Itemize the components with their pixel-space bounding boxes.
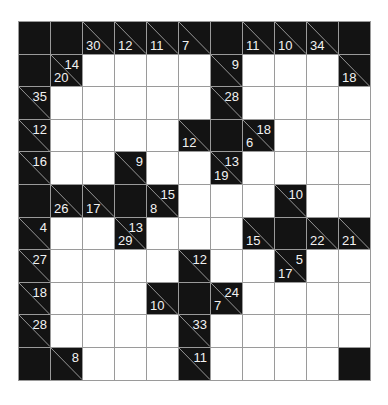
entry-cell[interactable] xyxy=(147,87,179,120)
across-clue: 13 xyxy=(225,155,239,168)
clue-cell: 18 xyxy=(19,283,51,316)
entry-cell[interactable] xyxy=(307,250,339,283)
entry-cell[interactable] xyxy=(147,250,179,283)
across-clue: 28 xyxy=(225,90,239,103)
clue-cell: 517 xyxy=(275,250,307,283)
entry-cell[interactable] xyxy=(339,283,371,316)
entry-cell[interactable] xyxy=(275,315,307,348)
entry-cell[interactable] xyxy=(307,120,339,153)
entry-cell[interactable] xyxy=(83,348,115,381)
entry-cell[interactable] xyxy=(307,315,339,348)
entry-cell[interactable] xyxy=(51,87,83,120)
entry-cell[interactable] xyxy=(147,315,179,348)
entry-cell[interactable] xyxy=(307,55,339,88)
entry-cell[interactable] xyxy=(83,218,115,251)
entry-cell[interactable] xyxy=(115,348,147,381)
entry-cell[interactable] xyxy=(243,55,275,88)
entry-cell[interactable] xyxy=(275,283,307,316)
entry-cell[interactable] xyxy=(307,185,339,218)
entry-cell[interactable] xyxy=(83,250,115,283)
clue-cell: 11 xyxy=(147,22,179,55)
down-clue: 26 xyxy=(54,202,68,215)
entry-cell[interactable] xyxy=(115,87,147,120)
across-clue: 27 xyxy=(33,253,47,266)
entry-cell[interactable] xyxy=(83,152,115,185)
clue-cell: 4 xyxy=(19,218,51,251)
entry-cell[interactable] xyxy=(211,250,243,283)
down-clue: 19 xyxy=(214,169,228,182)
entry-cell[interactable] xyxy=(115,283,147,316)
across-clue: 13 xyxy=(129,221,143,234)
across-clue: 5 xyxy=(296,253,303,266)
entry-cell[interactable] xyxy=(307,348,339,381)
entry-cell[interactable] xyxy=(83,315,115,348)
entry-cell[interactable] xyxy=(147,218,179,251)
entry-cell[interactable] xyxy=(243,152,275,185)
entry-cell[interactable] xyxy=(83,87,115,120)
entry-cell[interactable] xyxy=(51,315,83,348)
blocked-cell xyxy=(19,55,51,88)
down-clue: 10 xyxy=(150,299,164,312)
entry-cell[interactable] xyxy=(179,218,211,251)
entry-cell[interactable] xyxy=(243,87,275,120)
entry-cell[interactable] xyxy=(83,55,115,88)
entry-cell[interactable] xyxy=(339,87,371,120)
entry-cell[interactable] xyxy=(243,283,275,316)
entry-cell[interactable] xyxy=(275,152,307,185)
down-clue: 18 xyxy=(342,71,356,84)
entry-cell[interactable] xyxy=(115,315,147,348)
entry-cell[interactable] xyxy=(83,120,115,153)
entry-cell[interactable] xyxy=(339,185,371,218)
entry-cell[interactable] xyxy=(243,348,275,381)
entry-cell[interactable] xyxy=(211,315,243,348)
blocked-cell xyxy=(211,120,243,153)
entry-cell[interactable] xyxy=(275,87,307,120)
down-clue: 7 xyxy=(182,39,189,52)
entry-cell[interactable] xyxy=(147,55,179,88)
entry-cell[interactable] xyxy=(51,152,83,185)
entry-cell[interactable] xyxy=(243,250,275,283)
entry-cell[interactable] xyxy=(115,120,147,153)
across-clue: 8 xyxy=(72,351,79,364)
entry-cell[interactable] xyxy=(275,120,307,153)
entry-cell[interactable] xyxy=(51,218,83,251)
entry-cell[interactable] xyxy=(51,120,83,153)
entry-cell[interactable] xyxy=(83,283,115,316)
entry-cell[interactable] xyxy=(275,55,307,88)
entry-cell[interactable] xyxy=(115,250,147,283)
entry-cell[interactable] xyxy=(339,152,371,185)
across-clue: 4 xyxy=(40,221,47,234)
down-clue: 7 xyxy=(214,299,221,312)
blocked-cell xyxy=(179,283,211,316)
clue-cell: 10 xyxy=(147,283,179,316)
down-clue: 10 xyxy=(278,39,292,52)
entry-cell[interactable] xyxy=(51,250,83,283)
entry-cell[interactable] xyxy=(243,185,275,218)
entry-cell[interactable] xyxy=(147,120,179,153)
entry-cell[interactable] xyxy=(179,87,211,120)
entry-cell[interactable] xyxy=(211,185,243,218)
down-clue: 12 xyxy=(118,39,132,52)
clue-cell: 21 xyxy=(339,218,371,251)
entry-cell[interactable] xyxy=(179,55,211,88)
entry-cell[interactable] xyxy=(211,348,243,381)
entry-cell[interactable] xyxy=(339,120,371,153)
entry-cell[interactable] xyxy=(307,152,339,185)
entry-cell[interactable] xyxy=(179,185,211,218)
down-clue: 17 xyxy=(278,267,292,280)
down-clue: 29 xyxy=(118,234,132,247)
clue-cell: 15 xyxy=(243,218,275,251)
entry-cell[interactable] xyxy=(179,152,211,185)
entry-cell[interactable] xyxy=(115,55,147,88)
entry-cell[interactable] xyxy=(307,87,339,120)
entry-cell[interactable] xyxy=(275,348,307,381)
across-clue: 33 xyxy=(193,318,207,331)
entry-cell[interactable] xyxy=(147,152,179,185)
entry-cell[interactable] xyxy=(339,315,371,348)
entry-cell[interactable] xyxy=(51,283,83,316)
entry-cell[interactable] xyxy=(307,283,339,316)
entry-cell[interactable] xyxy=(243,315,275,348)
entry-cell[interactable] xyxy=(339,250,371,283)
entry-cell[interactable] xyxy=(147,348,179,381)
entry-cell[interactable] xyxy=(211,218,243,251)
